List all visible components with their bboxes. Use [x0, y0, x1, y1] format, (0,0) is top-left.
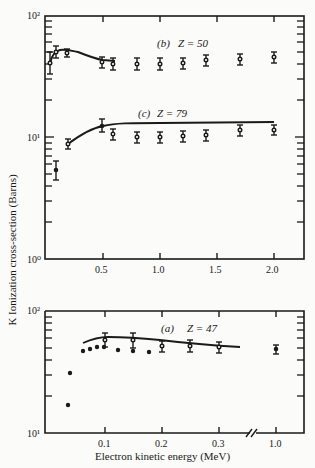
- bottom-x-tick-0-1: 0.1: [98, 438, 111, 449]
- top-panel: [45, 16, 304, 259]
- label-a-z: Z = 47: [187, 322, 218, 334]
- top-y-tick-100: 10²: [27, 10, 40, 21]
- top-x-tick-2-0: 2.0: [266, 264, 279, 275]
- bottom-y-tick-10: 10¹: [27, 428, 40, 439]
- label-b: (b): [157, 37, 170, 50]
- points-z47-errorbars: [102, 333, 279, 354]
- top-x-tick-1-5: 1.5: [209, 264, 222, 275]
- points-z47-dots: [66, 345, 151, 407]
- x-axis-label: Electron kinetic energy (MeV): [95, 450, 230, 462]
- top-y-tick-1: 10⁰: [27, 254, 41, 265]
- label-c-z: Z = 79: [157, 107, 188, 119]
- top-y-tick-10: 10¹: [27, 132, 40, 143]
- top-x-tick-0-5: 0.5: [95, 264, 108, 275]
- points-z79: [53, 119, 277, 180]
- bottom-plot-frame: [45, 311, 304, 433]
- bottom-x-tick-1-0: 1.0: [269, 438, 282, 449]
- points-z50: [47, 46, 277, 74]
- curve-z50: [50, 50, 115, 63]
- bottom-x-tick-0-2: 0.2: [155, 438, 168, 449]
- y-axis-label: K Ionization cross-section (Barns): [2, 150, 22, 350]
- label-b-z: Z = 50: [178, 37, 209, 49]
- bottom-y-tick-100: 10²: [27, 305, 40, 316]
- y-axis-label-text: K Ionization cross-section (Barns): [6, 174, 18, 325]
- curve-z79: [68, 122, 274, 144]
- top-x-tick-1-0: 1.0: [152, 264, 165, 275]
- label-c: (c): [138, 107, 151, 120]
- top-plot-frame: [45, 16, 304, 259]
- chart-canvas: 10² 10¹ 10⁰ 0.5 1.0 1.5 2.0 (b) Z = 50 (…: [0, 0, 315, 468]
- label-a: (a): [161, 322, 174, 335]
- bottom-panel: [45, 311, 304, 437]
- bottom-panel-labels: 10² 10¹ 0.1 0.2 0.3 1.0 (a) Z = 47: [27, 305, 282, 449]
- bottom-x-tick-0-3: 0.3: [212, 438, 225, 449]
